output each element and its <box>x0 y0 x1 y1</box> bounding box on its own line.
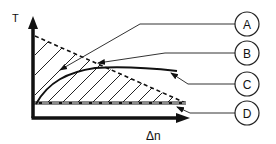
callout-a: A <box>235 12 259 36</box>
callout-d-label: D <box>243 107 252 121</box>
callout-b-label: B <box>243 47 251 61</box>
y-axis-arrow-icon <box>28 16 38 29</box>
x-axis-arrow-icon <box>176 113 190 123</box>
leader-d <box>177 107 235 113</box>
callout-c-label: C <box>243 78 252 92</box>
callout-c: C <box>235 72 259 96</box>
callout-d: D <box>235 101 259 125</box>
diagram-canvas: T Δn A B C D <box>0 0 276 144</box>
x-axis-label: Δn <box>146 129 161 143</box>
leader-c <box>171 73 235 84</box>
callout-b: B <box>235 41 259 65</box>
leader-b <box>98 53 235 63</box>
callout-a-label: A <box>243 18 251 32</box>
y-axis-label: T <box>12 12 19 24</box>
